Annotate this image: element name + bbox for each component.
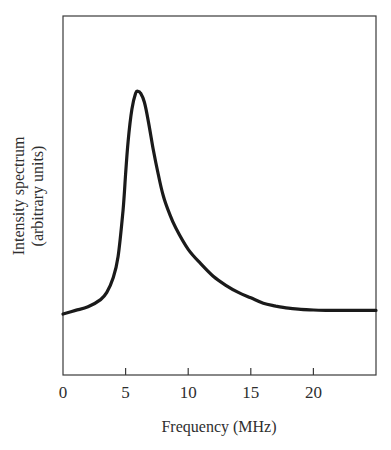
spectrum-curve — [63, 91, 376, 314]
y-axis-title-line2: (arbitrary units) — [29, 146, 47, 247]
x-axis-title: Frequency (MHz) — [161, 418, 276, 436]
x-axis-ticks — [126, 368, 314, 375]
x-tick-label-10: 10 — [180, 383, 197, 402]
x-axis-tick-labels: 0 5 10 15 20 — [59, 383, 322, 402]
x-tick-label-20: 20 — [305, 383, 322, 402]
y-axis-title-line1: Intensity spectrum — [10, 136, 28, 255]
x-tick-label-15: 15 — [242, 383, 259, 402]
plot-frame — [63, 16, 376, 375]
x-tick-label-5: 5 — [121, 383, 130, 402]
intensity-spectrum-chart: 0 5 10 15 20 Frequency (MHz) Intensity s… — [0, 0, 391, 450]
y-axis-title: Intensity spectrum (arbitrary units) — [10, 136, 47, 255]
x-tick-label-0: 0 — [59, 383, 68, 402]
